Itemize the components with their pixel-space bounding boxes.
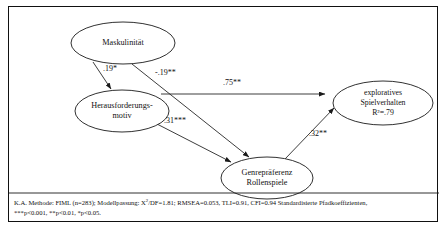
node-label-exploratives-spielverhalten: R²=.79 — [372, 108, 394, 117]
figure-note-line-2: ***p<0.001, **p<0.01, *p<0.05. — [14, 209, 101, 216]
node-herausforderungsmotiv: Herausforderungs-motiv — [75, 90, 169, 132]
path-coefficient-herausforderung-to-exploratives: .75** — [223, 78, 241, 87]
node-label-genrepraeferenz: Genrepräferenz — [242, 168, 293, 177]
node-label-exploratives-spielverhalten: exploratives — [364, 88, 402, 97]
node-exploratives-spielverhalten: explorativesSpielverhaltenR²=.79 — [333, 81, 433, 125]
figure-frame: MaskulinitätHerausforderungs-motivGenrep… — [8, 6, 438, 222]
path-coefficient-genrepraeferenz-to-exploratives: .32** — [309, 129, 327, 138]
node-label-genrepraeferenz: Rollenspiele — [247, 178, 288, 187]
node-label-herausforderungsmotiv: motiv — [112, 111, 132, 120]
path-coefficient-mask-to-herausforderung: .19* — [103, 64, 117, 73]
node-label-exploratives-spielverhalten: Spielverhalten — [360, 98, 405, 107]
figure-note-line-1: K.A. Methode: FIML (n=283); Modellpassun… — [14, 198, 368, 207]
path-coefficient-mask-to-genrepraeferenz: -.19** — [155, 68, 176, 77]
path-arrow-herausforderung-to-genrepraeferenz — [157, 124, 231, 162]
path-diagram: MaskulinitätHerausforderungs-motivGenrep… — [9, 7, 439, 223]
nodes-layer: MaskulinitätHerausforderungs-motivGenrep… — [71, 22, 433, 199]
node-label-herausforderungsmotiv: Herausforderungs- — [91, 101, 153, 110]
node-label-maskulinitaet: Maskulinität — [102, 38, 144, 47]
node-maskulinitaet: Maskulinität — [71, 22, 175, 64]
path-coefficient-herausforderung-to-genrepraeferenz: .31*** — [164, 116, 186, 125]
